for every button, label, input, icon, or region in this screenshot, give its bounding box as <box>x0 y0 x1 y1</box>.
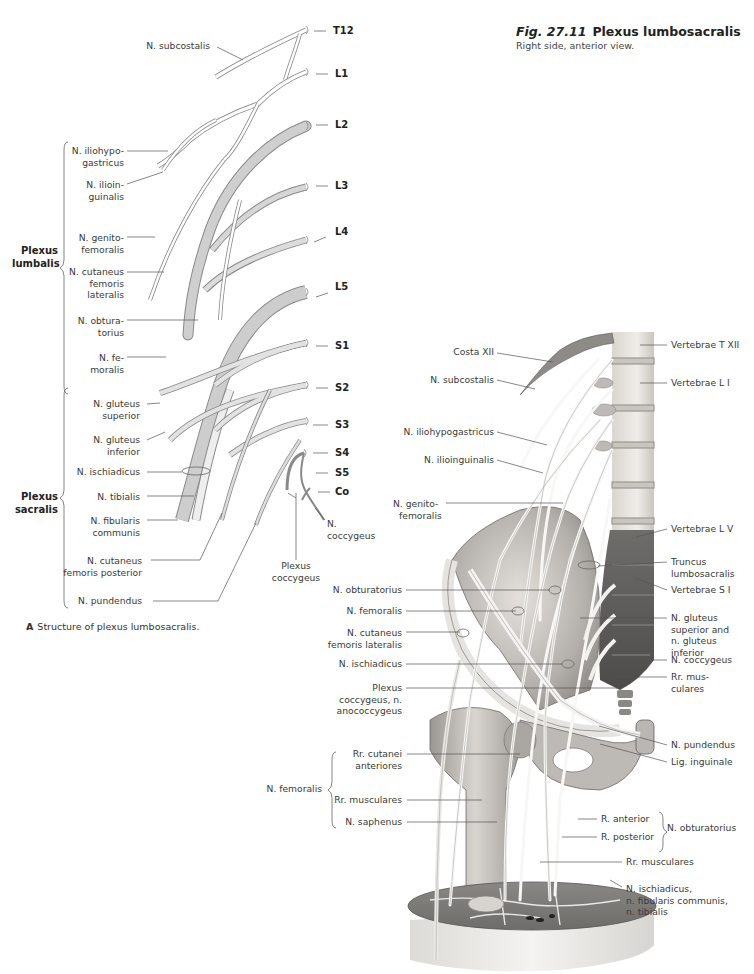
label-a-plexus-coccygeus: Plexuscoccygeus <box>266 560 326 583</box>
segment-label-co: Co <box>335 486 349 497</box>
segment-label-s2: S2 <box>335 382 349 393</box>
label-a-genitofemoralis: N. genito-femoralis <box>60 232 124 255</box>
label-a-fibularis-communis: N. fibulariscommunis <box>60 515 140 538</box>
group-plexus-sacralis: Plexus sacralis <box>12 490 58 516</box>
label-b-saphenus: N. saphenus <box>320 816 402 828</box>
label-a-coccygeus: N.coccygeus <box>327 518 375 541</box>
label-b-ilioinguinalis: N. ilioinguinalis <box>380 454 494 466</box>
segment-label-s5: S5 <box>335 467 349 478</box>
label-b-r-anterior: R. anterior <box>601 813 649 825</box>
label-b-costa-xii: Costa XII <box>410 346 494 358</box>
label-b-ischiadicus-combo: N. ischiadicus,n. fibularis communis,n. … <box>626 883 728 918</box>
segment-label-t12: T12 <box>333 25 354 36</box>
segment-label-s4: S4 <box>335 447 349 458</box>
label-a-cutaneus-femoris-posterior: N. cutaneusfemoris posterior <box>50 555 142 578</box>
label-b-pundendus: N. pundendus <box>671 739 735 751</box>
label-b-femoralis-group: N. femoralis <box>250 783 322 795</box>
label-a-iliohypogastricus: N. iliohypo-gastricus <box>60 145 124 168</box>
segment-label-l1: L1 <box>335 68 348 79</box>
group-plexus-lumbalis: Plexus lumbalis <box>12 244 58 270</box>
label-b-rr-musculares: Rr. musculares <box>320 794 402 806</box>
label-b-gluteus-superior-inferior: N. gluteussuperior andn. gluteusinferior <box>671 612 729 658</box>
label-b-rr-musculares-pelvic: Rr. mus-culares <box>671 671 709 694</box>
label-b-iliohypogastricus: N. iliohypogastricus <box>380 426 494 438</box>
panel-a-caption: AStructure of plexus lumbosacralis. <box>26 621 199 632</box>
label-a-ischiadicus: N. ischiadicus <box>60 466 140 478</box>
label-a-gluteus-superior: N. gluteussuperior <box>70 398 140 421</box>
label-a-tibialis: N. tibialis <box>60 491 140 503</box>
label-b-vertebrae-li: Vertebrae L I <box>671 377 730 389</box>
label-b-r-posterior: R. posterior <box>601 831 654 843</box>
segment-label-s1: S1 <box>335 340 349 351</box>
segment-label-s3: S3 <box>335 419 349 430</box>
label-b-rr-cutanei-anteriores: Rr. cutaneianteriores <box>330 748 402 771</box>
figure-subtitle: Right side, anterior view. <box>516 40 634 51</box>
segment-label-l4: L4 <box>335 226 348 237</box>
label-b-obturatorius-group: N. obturatorius <box>667 822 736 834</box>
segment-label-l2: L2 <box>335 119 348 130</box>
label-a-pundendus: N. pundendus <box>60 595 142 607</box>
segment-label-l5: L5 <box>335 281 348 292</box>
label-b-subcostalis: N. subcostalis <box>410 374 494 386</box>
label-b-lig-inguinale: Lig. inguinale <box>671 756 733 768</box>
label-b-vertebrae-lv: Vertebrae L V <box>671 523 733 535</box>
label-b-rr-musculares-thigh: Rr. musculares <box>626 856 694 868</box>
label-b-obturatorius: N. obturatorius <box>300 584 402 596</box>
segment-label-l3: L3 <box>335 180 348 191</box>
label-a-subcostalis: N. subcostalis <box>140 40 210 52</box>
label-b-vertebrae-txii: Vertebrae T XII <box>671 339 739 351</box>
label-b-ischiadicus: N. ischiadicus <box>300 658 402 670</box>
label-a-femoralis: N. fe-moralis <box>60 352 124 375</box>
figure-title: Fig. 27.11Plexus lumbosacralis <box>516 24 741 39</box>
label-b-truncus-lumbosacralis: Truncuslumbosacralis <box>671 556 735 579</box>
label-a-cutaneus-femoris-lateralis: N. cutaneusfemorislateralis <box>60 266 124 301</box>
label-b-coccygeus: N. coccygeus <box>671 654 732 666</box>
label-b-femoralis: N. femoralis <box>300 605 402 617</box>
label-b-genitofemoralis: N. genito-femoralis <box>393 498 442 521</box>
label-b-plexus-coccygeus: Plexuscoccygeus, n.anococcygeus <box>300 682 402 717</box>
label-b-cutaneus-femoris-lateralis: N. cutaneusfemoris lateralis <box>300 627 402 650</box>
label-a-ilioinguinalis: N. ilioin-guinalis <box>60 179 124 202</box>
label-a-obturatorius: N. obtura-torius <box>60 315 124 338</box>
label-b-vertebrae-si: Vertebrae S I <box>671 584 731 596</box>
label-a-gluteus-inferior: N. gluteusinferior <box>70 434 140 457</box>
